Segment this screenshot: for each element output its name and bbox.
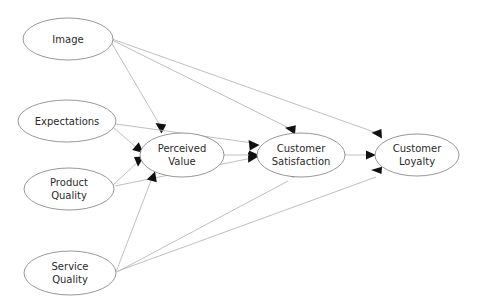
node-label-product-quality-line1: Product <box>50 177 88 188</box>
edge-expectations-perceived-value[interactable] <box>114 128 144 153</box>
node-customer-satisfaction[interactable]: Customer Satisfaction <box>257 133 345 177</box>
node-label-image: Image <box>52 34 83 45</box>
edge-image-customer-loyalty[interactable] <box>112 39 382 138</box>
node-label-expectations: Expectations <box>35 116 100 127</box>
edge-line <box>118 177 376 271</box>
arrowhead-icon <box>249 140 260 151</box>
node-layer: Image Expectations Product Quality Servi… <box>18 18 459 295</box>
edge-line <box>113 161 139 185</box>
node-label-customer-loyalty-line2: Loyalty <box>399 156 435 167</box>
arrowhead-icon <box>366 150 376 159</box>
node-shape-ellipse <box>140 133 224 177</box>
node-image[interactable]: Image <box>23 18 113 60</box>
node-label-perceived-value-line2: Value <box>168 156 195 167</box>
node-label-service-quality-line2: Quality <box>52 274 88 285</box>
node-label-customer-loyalty-line1: Customer <box>393 143 442 154</box>
node-label-customer-satisfaction-line2: Satisfaction <box>272 156 331 167</box>
node-product-quality[interactable]: Product Quality <box>24 168 114 210</box>
edge-service-quality-perceived-value[interactable] <box>116 172 157 273</box>
path-diagram: Image Expectations Product Quality Servi… <box>0 0 480 305</box>
node-label-perceived-value-line1: Perceived <box>158 143 207 154</box>
node-label-service-quality-line1: Service <box>52 261 89 272</box>
node-service-quality[interactable]: Service Quality <box>24 251 116 295</box>
node-shape-ellipse <box>24 168 114 210</box>
edge-line <box>112 39 377 133</box>
arrowhead-icon <box>147 172 157 183</box>
node-perceived-value[interactable]: Perceived Value <box>140 133 224 177</box>
edge-service-quality-customer-loyalty[interactable] <box>118 167 382 271</box>
edge-line <box>116 178 152 272</box>
edge-service-quality-customer-satisfaction[interactable] <box>117 171 295 272</box>
edge-customer-satisfaction-customer-loyalty[interactable] <box>345 150 376 159</box>
edge-line <box>112 40 291 129</box>
node-shape-ellipse <box>375 134 459 176</box>
node-customer-loyalty[interactable]: Customer Loyalty <box>375 134 459 176</box>
node-shape-ellipse <box>24 251 116 295</box>
arrowhead-icon <box>156 123 167 134</box>
arrowhead-icon <box>371 167 382 174</box>
edge-line <box>117 181 288 272</box>
node-label-product-quality-line2: Quality <box>51 190 87 201</box>
node-label-customer-satisfaction-line1: Customer <box>277 143 326 154</box>
edge-line <box>111 42 161 127</box>
edge-image-customer-satisfaction[interactable] <box>112 40 296 134</box>
node-shape-ellipse <box>257 133 345 177</box>
node-expectations[interactable]: Expectations <box>18 100 116 142</box>
arrowhead-icon <box>372 129 382 138</box>
edge-line <box>114 128 138 149</box>
diagram-canvas: Image Expectations Product Quality Servi… <box>0 0 480 305</box>
